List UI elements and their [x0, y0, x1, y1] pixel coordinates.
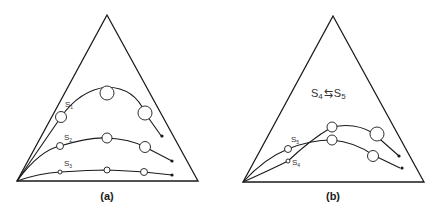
equilibrium-arrow: ⇆ [324, 87, 333, 99]
trajectory-s3 [17, 170, 172, 181]
label-s3: S3 [64, 159, 72, 169]
node [138, 106, 152, 120]
node [102, 133, 112, 143]
label-s4: S4 [292, 158, 300, 168]
endpoint-dot [170, 159, 173, 162]
node [100, 86, 114, 100]
caption-b: (b) [326, 190, 340, 202]
endpoint-dot [160, 134, 163, 137]
node [370, 127, 384, 141]
node [140, 142, 151, 153]
node [327, 135, 337, 145]
label-s5: S5 [291, 135, 299, 145]
label-s2: S2 [64, 133, 72, 143]
endpoint-dot [397, 154, 400, 157]
equilibrium-label: S4⇆S5 [311, 87, 346, 101]
node [58, 170, 62, 174]
node [56, 112, 67, 123]
endpoint-dot [170, 173, 173, 176]
node [368, 151, 379, 162]
node [285, 146, 292, 153]
diagram-canvas: S1 S2 S3 (a) S4⇆S5 S5 [0, 0, 438, 211]
panel-b: S4⇆S5 S5 S4 (b) [243, 16, 424, 202]
trajectory-s1 [17, 87, 162, 181]
node [57, 143, 64, 150]
node [104, 167, 110, 173]
node [141, 169, 148, 176]
endpoint-dot [400, 166, 403, 169]
node [286, 159, 290, 163]
ternary-triangle-b [243, 16, 424, 182]
panel-a: S1 S2 S3 (a) [17, 15, 198, 202]
caption-a: (a) [100, 190, 114, 202]
label-s1: S1 [65, 100, 73, 110]
trajectory-s5 [243, 140, 400, 182]
node [327, 122, 337, 132]
